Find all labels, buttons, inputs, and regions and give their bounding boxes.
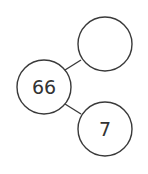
part-bottom-node: 7 [78, 102, 132, 156]
part-top-node[interactable] [78, 17, 132, 71]
whole-node: 66 [17, 60, 71, 114]
number-bond-diagram: 66 7 [0, 0, 148, 174]
whole-value: 66 [32, 76, 56, 98]
edge-whole-to-bottom [65, 104, 81, 114]
part-bottom-value: 7 [99, 118, 111, 140]
part-top-circle[interactable] [78, 17, 132, 71]
edge-whole-to-top [65, 60, 81, 70]
